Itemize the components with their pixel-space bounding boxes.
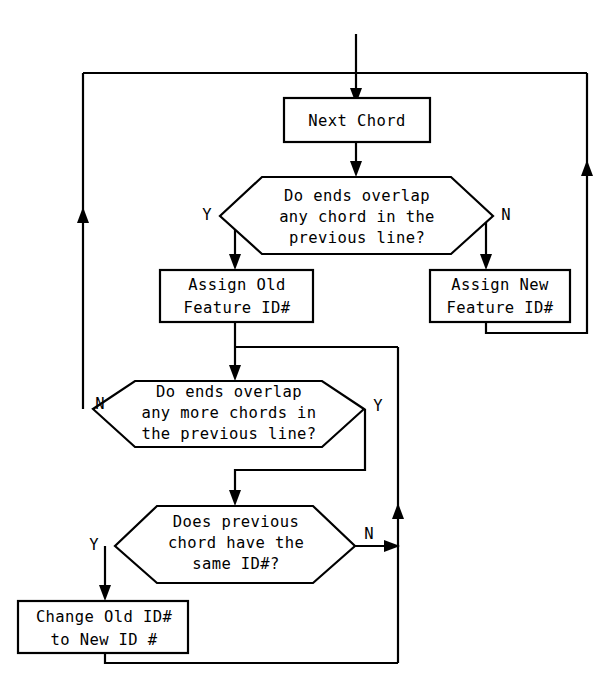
decision-overlap-more-line2: any more chords in — [141, 404, 316, 422]
arrowhead-yes-to-assign-old — [229, 254, 241, 270]
decision-overlap-more-no-label: N — [95, 395, 104, 413]
next-chord-label: Next Chord — [308, 112, 405, 130]
node-assign-new[interactable]: Assign New Feature ID# — [430, 270, 570, 322]
decision-overlap-any-line3: previous line? — [289, 229, 425, 247]
assign-old-line1: Assign Old — [188, 276, 285, 294]
flowchart-canvas: Next Chord Do ends overlap any chord in … — [0, 0, 605, 690]
assign-old-line2: Feature ID# — [183, 299, 290, 317]
decision-same-id-yes-label: Y — [89, 536, 99, 554]
arrowhead-riser-up — [392, 503, 404, 519]
arrowhead-assign-old-to-decision — [229, 365, 241, 381]
arrowhead-left-loop-up — [77, 207, 89, 223]
change-old-id-line2: to New ID # — [50, 631, 157, 649]
node-next-chord[interactable]: Next Chord — [284, 98, 430, 142]
edge-change-old-id-to-riser — [105, 653, 398, 663]
assign-new-line1: Assign New — [451, 276, 549, 294]
node-change-old-id[interactable]: Change Old ID# to New ID # — [18, 601, 188, 653]
assign-new-line2: Feature ID# — [446, 299, 553, 317]
decision-overlap-any-line2: any chord in the — [279, 208, 435, 226]
decision-overlap-any-yes-label: Y — [202, 206, 212, 224]
decision-overlap-more-line1: Do ends overlap — [156, 383, 302, 401]
node-decision-overlap-any[interactable]: Do ends overlap any chord in the previou… — [202, 177, 510, 254]
arrowhead-next-chord-to-decision — [350, 161, 362, 177]
decision-overlap-more-yes-label: Y — [373, 397, 383, 415]
decision-same-id-line2: chord have the — [168, 534, 304, 552]
arrowhead-no-to-assign-new — [480, 254, 492, 270]
arrowhead-right-loop-up — [581, 160, 593, 176]
decision-same-id-line1: Does previous — [173, 513, 300, 531]
decision-overlap-any-no-label: N — [501, 206, 510, 224]
arrowhead-same-id-yes-down — [99, 585, 111, 601]
decision-same-id-no-label: N — [364, 525, 373, 543]
arrowhead-overlap-more-yes-down — [229, 490, 241, 506]
change-old-id-line1: Change Old ID# — [36, 608, 173, 626]
decision-overlap-any-line1: Do ends overlap — [284, 187, 430, 205]
node-decision-overlap-more[interactable]: Do ends overlap any more chords in the p… — [93, 381, 383, 447]
node-decision-same-id[interactable]: Does previous chord have the same ID#? Y… — [89, 506, 373, 583]
node-assign-old[interactable]: Assign Old Feature ID# — [160, 270, 313, 322]
decision-same-id-line3: same ID#? — [192, 555, 280, 573]
decision-overlap-more-line3: the previous line? — [141, 425, 316, 443]
